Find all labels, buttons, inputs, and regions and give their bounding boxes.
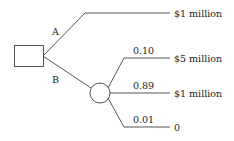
chance-node-circle [90,83,110,103]
branch-a-label: A [52,27,59,37]
branch-b-line [43,56,91,88]
probability-1: 0.10 [133,46,154,56]
payoff-2: $1 million [174,89,222,99]
branch-a-outcome: $1 million [174,9,222,19]
probability-3: 0.01 [133,115,154,125]
payoff-3: 0 [174,123,180,133]
branch-b-label: B [52,75,59,85]
decision-tree-lines [0,0,234,141]
probability-2: 0.89 [133,81,154,91]
decision-node-square [15,46,44,67]
payoff-1: $5 million [174,54,222,64]
